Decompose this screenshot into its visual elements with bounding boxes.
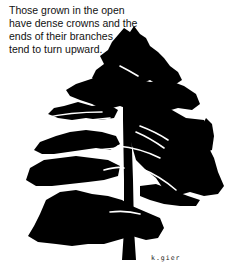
tree-silhouette-icon: [26, 26, 224, 260]
artist-signature: k.gier: [151, 254, 180, 262]
pine-tree-illustration: [0, 0, 238, 268]
